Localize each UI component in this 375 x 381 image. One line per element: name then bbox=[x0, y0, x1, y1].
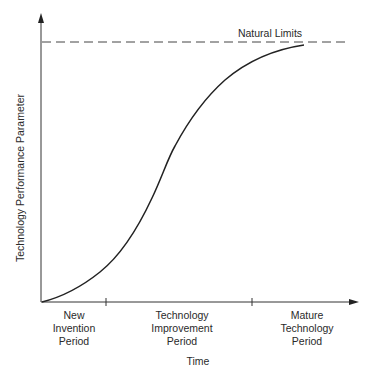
period-label-line: Improvement bbox=[137, 322, 227, 335]
period-label-technology-improvement: Technology Improvement Period bbox=[137, 309, 227, 348]
period-label-line: Mature bbox=[262, 309, 352, 322]
period-label-mature-technology: Mature Technology Period bbox=[262, 309, 352, 348]
period-label-new-invention: New Invention Period bbox=[29, 309, 119, 348]
period-label-line: Invention bbox=[29, 322, 119, 335]
period-label-line: Technology bbox=[137, 309, 227, 322]
y-axis-arrow-icon bbox=[38, 13, 44, 23]
x-axis-label: Time bbox=[168, 355, 228, 368]
natural-limits-label: Natural Limits bbox=[230, 27, 310, 40]
period-label-line: Period bbox=[137, 335, 227, 348]
period-label-line: New bbox=[29, 309, 119, 322]
period-label-line: Technology bbox=[262, 322, 352, 335]
period-label-line: Period bbox=[29, 335, 119, 348]
y-axis-label: Technology Performance Parameter bbox=[13, 63, 27, 293]
x-axis-arrow-icon bbox=[349, 299, 359, 305]
s-curve bbox=[42, 45, 304, 302]
period-label-line: Period bbox=[262, 335, 352, 348]
